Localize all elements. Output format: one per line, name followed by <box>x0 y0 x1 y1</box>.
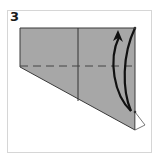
flap-shape <box>135 112 145 130</box>
reference-point-bottom <box>134 111 137 114</box>
reference-point-top <box>134 27 137 30</box>
origami-diagram <box>0 0 158 160</box>
